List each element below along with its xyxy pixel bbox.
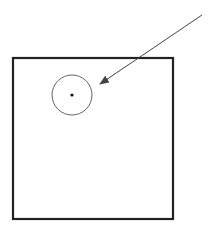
square-frame: [13, 58, 173, 219]
diagram-canvas: [0, 0, 209, 230]
center-dot: [70, 93, 73, 96]
pointer-arrow: [100, 15, 202, 84]
